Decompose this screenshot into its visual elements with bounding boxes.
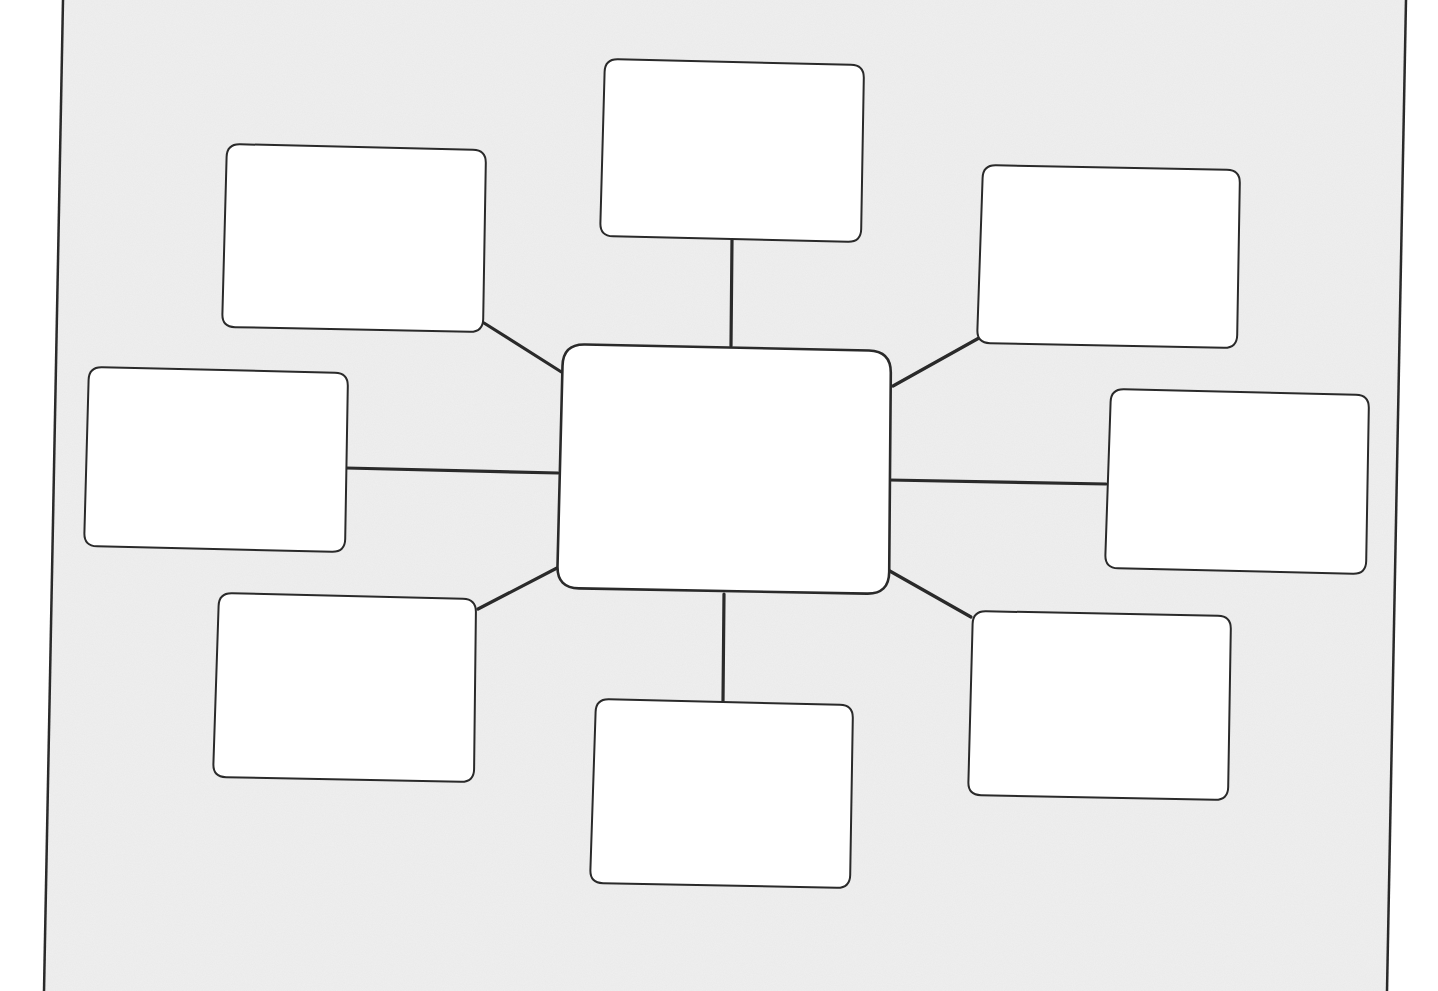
connector-to-top [731, 240, 732, 346]
connector-to-bottom [723, 594, 724, 701]
worksheet-sheet [0, 0, 1438, 991]
box-top[interactable] [600, 59, 863, 241]
box-upper-left[interactable] [222, 144, 485, 332]
worksheet-page [0, 0, 1438, 991]
box-bottom[interactable] [590, 699, 852, 888]
box-lower-left[interactable] [213, 593, 476, 782]
box-left[interactable] [84, 367, 347, 551]
box-lower-right[interactable] [968, 611, 1230, 800]
box-upper-right[interactable] [977, 165, 1239, 348]
spider-map-diagram [0, 0, 1438, 991]
box-center[interactable] [557, 344, 890, 593]
diagram-boxes [84, 59, 1368, 888]
box-right[interactable] [1105, 389, 1368, 573]
